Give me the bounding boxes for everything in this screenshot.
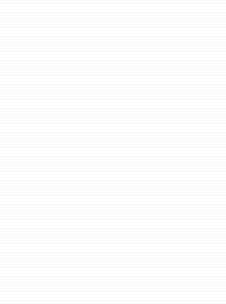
figure-container — [0, 0, 226, 304]
bottom-chart-panel — [31, 152, 214, 270]
top-chart-svg — [31, 14, 214, 126]
bottom-chart-svg — [31, 152, 214, 270]
top-chart-panel — [31, 14, 214, 126]
